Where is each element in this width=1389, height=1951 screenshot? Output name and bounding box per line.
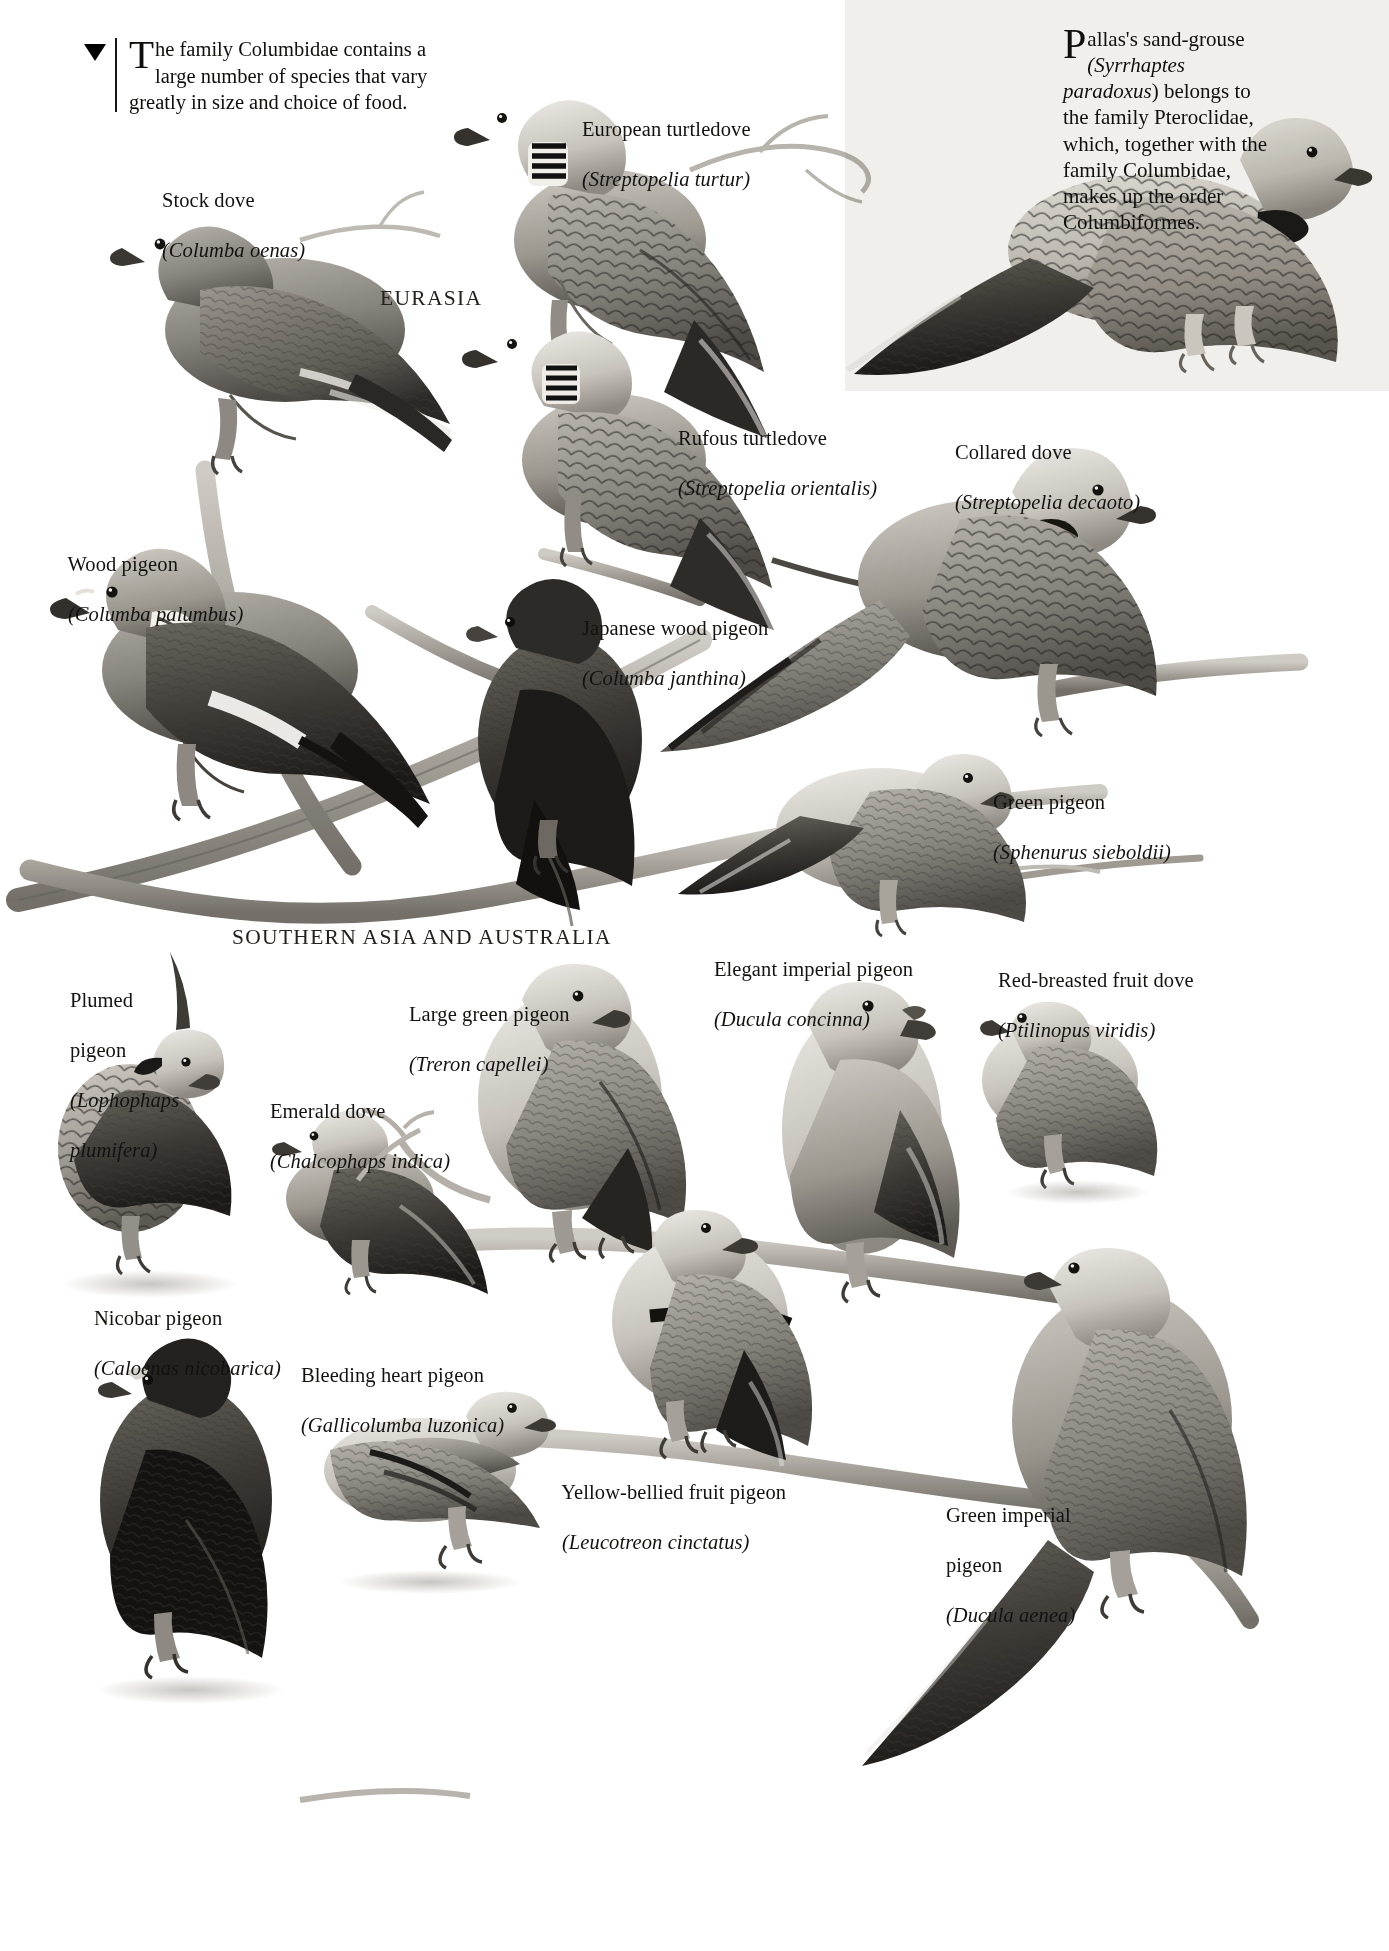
common-name: Elegant imperial pigeon xyxy=(714,958,913,980)
scientific-name-line1: (Lophophaps xyxy=(70,1089,179,1111)
neck-stripes xyxy=(542,364,580,404)
feet xyxy=(550,1236,634,1262)
species-label-nicobar-pigeon: Nicobar pigeon (Caloenas nicobarica) xyxy=(73,1281,281,1406)
common-name: European turtledove xyxy=(582,118,751,140)
species-label-red-breasted-fruit-dove: Red-breasted fruit dove (Ptilinopus viri… xyxy=(977,943,1194,1068)
scientific-name: (Gallicolumba luzonica) xyxy=(301,1414,504,1436)
sandgrouse-line1: allas's sand-grouse xyxy=(1087,27,1244,51)
region-label-eurasia: EURASIA xyxy=(380,286,482,311)
species-label-rufous-turtledove: Rufous turtledove (Streptopelia oriental… xyxy=(657,401,877,526)
scientific-name: (Streptopelia decaoto) xyxy=(955,491,1140,513)
scientific-name: (Ducula aenea) xyxy=(946,1604,1075,1626)
scientific-name-line2: plumifera) xyxy=(70,1139,158,1161)
scientific-name: (Caloenas nicobarica) xyxy=(94,1357,281,1379)
common-name-line2: pigeon xyxy=(946,1554,1002,1576)
common-name: Red-breasted fruit dove xyxy=(998,969,1194,991)
feet xyxy=(843,1280,880,1302)
species-label-green-pigeon: Green pigeon (Sphenurus sieboldii) xyxy=(972,765,1171,890)
species-label-elegant-imperial-pigeon: Elegant imperial pigeon (Ducula concinna… xyxy=(693,932,913,1057)
scientific-name: (Ptilinopus viridis) xyxy=(998,1019,1155,1041)
yellow-bellied-fruit-pigeon-illustration xyxy=(612,1210,812,1466)
scientific-name: (Columba oenas) xyxy=(162,239,305,261)
sandgrouse-dropcap: P xyxy=(1063,28,1087,61)
scientific-name: (Chalcophaps indica) xyxy=(270,1150,450,1172)
common-name: Nicobar pigeon xyxy=(94,1307,222,1329)
intro-paragraph: The family Columbidae contains a large n… xyxy=(129,36,444,116)
scientific-name: (Treron capellei) xyxy=(409,1053,549,1075)
scientific-name: (Ducula concinna) xyxy=(714,1008,870,1030)
intro-block: The family Columbidae contains a large n… xyxy=(84,36,444,116)
scientific-name: (Columba palumbus) xyxy=(68,603,243,625)
sandgrouse-species: paradoxus xyxy=(1063,79,1152,103)
intro-dropcap: T xyxy=(129,38,155,71)
scientific-name: (Leucotreon cinctatus) xyxy=(562,1531,750,1553)
intro-text: he family Columbidae contains a large nu… xyxy=(129,38,427,113)
branch-twig-bottom xyxy=(300,1791,470,1800)
common-name: Rufous turtledove xyxy=(678,427,827,449)
common-name: Collared dove xyxy=(955,441,1072,463)
species-label-japanese-wood-pigeon: Japanese wood pigeon (Columba janthina) xyxy=(561,591,768,716)
scientific-name: (Sphenurus sieboldii) xyxy=(993,841,1171,863)
intro-rule xyxy=(115,38,117,112)
common-name: Emerald dove xyxy=(270,1100,386,1122)
species-label-bleeding-heart-pigeon: Bleeding heart pigeon (Gallicolumba luzo… xyxy=(280,1338,504,1463)
sandgrouse-genus: (Syrrhaptes xyxy=(1087,53,1185,77)
species-label-emerald-dove: Emerald dove (Chalcophaps indica) xyxy=(249,1074,450,1199)
common-name: Green pigeon xyxy=(993,791,1105,813)
region-label-southern-asia-australia: SOUTHERN ASIA AND AUSTRALIA xyxy=(232,925,612,950)
common-name-line2: pigeon xyxy=(70,1039,126,1061)
common-name: Bleeding heart pigeon xyxy=(301,1364,484,1386)
species-label-stock-dove: Stock dove (Columba oenas) xyxy=(141,163,305,288)
common-name-line1: Green imperial xyxy=(946,1504,1071,1526)
common-name: Yellow-bellied fruit pigeon xyxy=(561,1481,786,1503)
down-triangle-icon xyxy=(84,44,106,61)
encyclopedia-plate-page: The family Columbidae contains a large n… xyxy=(0,0,1389,1951)
scientific-name: (Streptopelia turtur) xyxy=(582,168,750,190)
feet xyxy=(661,1430,736,1458)
species-label-wood-pigeon: Wood pigeon (Columba palumbus) xyxy=(47,527,243,652)
common-name-line1: Plumed xyxy=(70,989,133,1011)
common-name: Japanese wood pigeon xyxy=(582,617,768,639)
sandgrouse-note: Pallas's sand-grouse(Syrrhaptesparadoxus… xyxy=(1063,26,1278,235)
species-label-collared-dove: Collared dove (Streptopelia decaoto) xyxy=(934,415,1140,540)
species-label-yellow-bellied-fruit-pigeon: Yellow-bellied fruit pigeon (Leucotreon … xyxy=(541,1455,786,1580)
scientific-name: (Streptopelia orientalis) xyxy=(678,477,877,499)
common-name: Wood pigeon xyxy=(68,553,178,575)
species-label-plumed-pigeon: Plumed pigeon (Lophophaps plumifera) xyxy=(49,963,179,1188)
species-label-european-turtledove: European turtledove (Streptopelia turtur… xyxy=(561,92,751,217)
common-name: Large green pigeon xyxy=(409,1003,570,1025)
scientific-name: (Columba janthina) xyxy=(582,667,746,689)
species-label-green-imperial-pigeon: Green imperial pigeon (Ducula aenea) xyxy=(925,1478,1075,1653)
common-name: Stock dove xyxy=(162,189,255,211)
